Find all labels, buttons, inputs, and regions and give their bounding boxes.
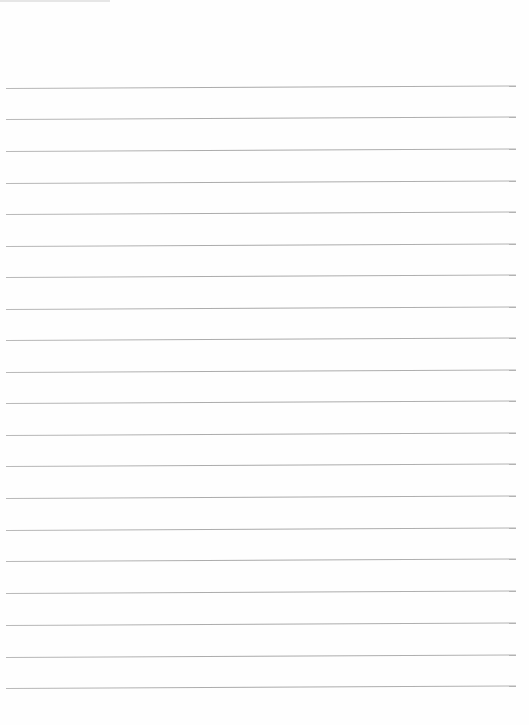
ruled-line bbox=[6, 528, 516, 531]
ruled-line bbox=[6, 401, 516, 404]
ruled-line bbox=[6, 149, 516, 152]
ruled-line bbox=[6, 655, 516, 658]
ruled-line bbox=[6, 307, 516, 310]
ruled-line bbox=[6, 86, 516, 89]
ruled-line bbox=[6, 433, 516, 436]
lined-paper-page bbox=[0, 0, 529, 725]
ruled-line bbox=[6, 496, 516, 499]
ruled-line bbox=[6, 623, 516, 626]
ruled-line bbox=[6, 591, 516, 594]
ruled-line bbox=[6, 117, 516, 120]
ruled-line bbox=[6, 464, 516, 467]
ruled-line bbox=[6, 686, 516, 689]
ruled-line bbox=[6, 275, 516, 278]
ruled-line bbox=[6, 338, 516, 341]
ruled-line bbox=[6, 181, 516, 184]
ruled-line bbox=[6, 244, 516, 247]
ruled-line bbox=[6, 370, 516, 373]
ruled-line bbox=[6, 559, 516, 562]
ruled-line bbox=[6, 212, 516, 215]
scan-edge-mark bbox=[0, 0, 110, 2]
